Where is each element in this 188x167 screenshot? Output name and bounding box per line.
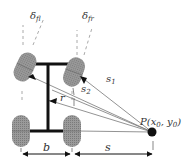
wheel-rear-right (63, 115, 81, 147)
arrow-r-icon (49, 98, 57, 104)
label-r: r (60, 92, 66, 103)
label-s: s (105, 141, 111, 154)
target-point-p (148, 128, 157, 137)
label-b: b (43, 141, 50, 154)
label-s2: s2 (81, 83, 91, 96)
front-right-steer-guides (77, 28, 92, 55)
wheel-rear-left (12, 115, 30, 147)
label-delta-fl: δfl (30, 10, 41, 23)
tick-s2 (73, 88, 74, 95)
front-left-steer-guides (23, 18, 44, 45)
label-s1: s1 (106, 73, 116, 86)
label-delta-fr: δfr (82, 10, 95, 23)
vehicle-geometry-diagram: δfl δfr s1 s2 r P(x0, y0) b s (0, 0, 188, 167)
line-axle-extension (78, 131, 152, 132)
